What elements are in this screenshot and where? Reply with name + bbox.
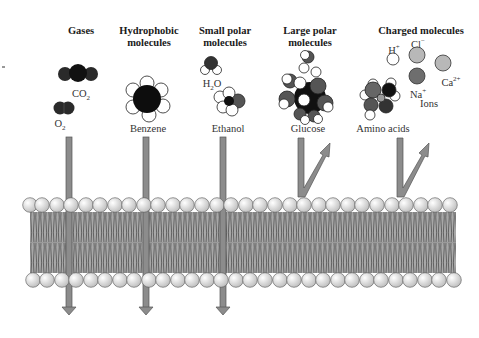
ethanol-molecule-icon — [214, 87, 245, 116]
na-ion-icon — [409, 68, 425, 84]
membrane-permeability-diagram: Gases Hydrophobic molecules Small polar … — [0, 0, 479, 338]
cl-ion-icon — [409, 47, 425, 63]
h-plus-ion-icon — [387, 53, 399, 65]
o2-molecule-icon — [54, 102, 75, 115]
arrow-charged-blocked — [397, 138, 429, 197]
lipid-bilayer — [30, 212, 456, 273]
ca-ion-icon — [435, 55, 451, 71]
arrow-large-polar-blocked — [298, 138, 330, 197]
glucose-molecule-icon — [279, 51, 333, 125]
h2o-molecule-icon — [201, 57, 222, 75]
diagram-graphics — [0, 0, 479, 338]
amino-acids-molecule-icon — [360, 78, 400, 120]
phospholipid-heads-bottom — [26, 273, 462, 288]
co2-molecule-icon — [58, 64, 98, 82]
phospholipid-heads-top — [23, 198, 458, 213]
benzene-molecule-icon — [126, 76, 170, 122]
